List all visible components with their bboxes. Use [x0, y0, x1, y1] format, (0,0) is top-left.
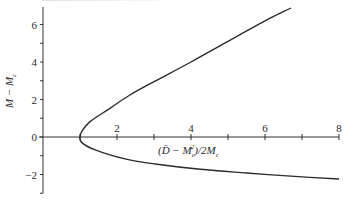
y-tick-label: 0	[32, 131, 38, 143]
axes	[39, 7, 339, 193]
x-tick-label: 8	[336, 122, 342, 134]
chart: 2468−20246 (D̄ − Mc2)/2Mc M − Mc	[0, 0, 346, 200]
y-axis-label: M − Mc	[3, 73, 18, 109]
y-tick-label: −2	[25, 169, 37, 181]
x-tick-label: 4	[188, 122, 194, 134]
y-tick-label: 2	[32, 94, 38, 106]
y-tick-label: 6	[32, 19, 38, 31]
x-tick-label: 6	[262, 122, 268, 134]
y-tick-label: 4	[32, 56, 38, 68]
x-tick-label: 2	[114, 122, 120, 134]
x-axis-label: (D̄ − Mc2)/2Mc	[158, 143, 220, 159]
